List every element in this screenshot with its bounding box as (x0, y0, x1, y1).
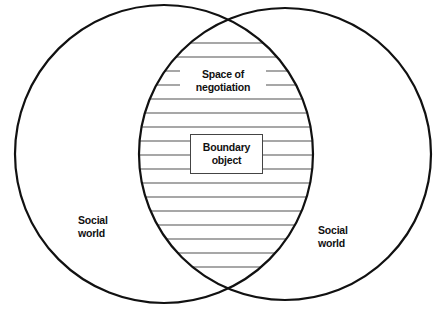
boundary-object-box: Boundary object (190, 134, 263, 174)
boundary-object-line-1: Boundary (191, 141, 262, 154)
left-social-world-label: Social world (78, 214, 108, 240)
space-of-negotiation-line-2: negotiation (180, 81, 266, 94)
boundary-object-line-2: object (191, 154, 262, 167)
left-social-world-line-1: Social (78, 214, 108, 227)
right-social-world-line-1: Social (318, 224, 348, 237)
right-social-world-label: Social world (318, 224, 348, 250)
right-social-world-circle (139, 8, 431, 300)
space-of-negotiation-label: Space of negotiation (180, 66, 266, 96)
left-social-world-circle (15, 5, 313, 303)
right-social-world-line-2: world (318, 237, 348, 250)
left-social-world-line-2: world (78, 227, 108, 240)
space-of-negotiation-line-1: Space of (180, 68, 266, 81)
